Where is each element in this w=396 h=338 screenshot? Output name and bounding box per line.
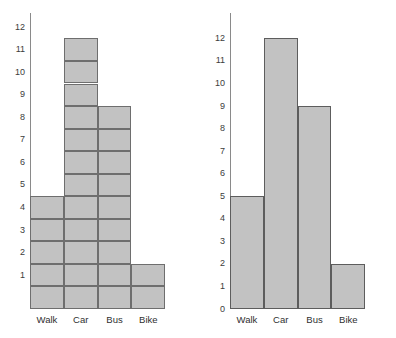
y-tick-label: 5 [202, 192, 225, 201]
chart-panel-left: 123456789101112 WalkCarBusBike [0, 0, 198, 338]
y-tick-label: 4 [2, 203, 25, 212]
bar-cell [64, 286, 98, 309]
y-tick-label: 1 [202, 282, 225, 291]
two-bar-charts-figure: 123456789101112 WalkCarBusBike 012345678… [0, 0, 396, 338]
bar-cell [64, 151, 98, 174]
bar-cell [64, 219, 98, 242]
bar-cell [30, 196, 64, 219]
bar-cell [64, 61, 98, 84]
y-tick-label: 7 [2, 135, 25, 144]
bar [264, 38, 298, 309]
y-tick-label: 6 [2, 158, 25, 167]
bar-cell [98, 196, 132, 219]
bar-cell [64, 174, 98, 197]
y-tick-label: 5 [2, 180, 25, 189]
y-tick-label: 12 [202, 34, 225, 43]
x-tick-label: Walk [230, 315, 264, 325]
y-tick-label: 8 [202, 124, 225, 133]
bar [298, 106, 332, 309]
bar-cell [64, 129, 98, 152]
bar-cell [64, 241, 98, 264]
bar-cell [98, 219, 132, 242]
chart-panel-right: 0123456789101112 WalkCarBusBike [198, 0, 396, 338]
y-tick-label: 2 [202, 259, 225, 268]
bar-cell [98, 106, 132, 129]
x-tick-label: Bus [298, 315, 332, 325]
x-tick-label: Car [64, 315, 98, 325]
bar-cell [98, 264, 132, 287]
y-tick-label: 10 [202, 79, 225, 88]
bar-cell [30, 264, 64, 287]
y-tick-label: 6 [202, 169, 225, 178]
bar-cell [30, 241, 64, 264]
y-tick-label: 3 [2, 226, 25, 235]
x-tick-label: Walk [30, 315, 64, 325]
bar-cell [98, 129, 132, 152]
x-tick-label: Bike [131, 315, 165, 325]
bar-cell [30, 286, 64, 309]
y-tick-label: 11 [202, 56, 225, 65]
y-tick-label: 3 [202, 237, 225, 246]
bar-cell [98, 174, 132, 197]
y-tick-label: 11 [2, 45, 25, 54]
x-tick-label: Car [264, 315, 298, 325]
y-tick-label: 1 [2, 271, 25, 280]
bar-cell [131, 264, 165, 287]
bar-cell [64, 264, 98, 287]
bar-cell [64, 38, 98, 61]
y-tick-label: 8 [2, 113, 25, 122]
bar [331, 264, 365, 309]
y-tick-label: 9 [2, 90, 25, 99]
bar-cell [30, 219, 64, 242]
bar-cell [64, 196, 98, 219]
y-tick-label: 9 [202, 102, 225, 111]
bar-cell [98, 286, 132, 309]
bar-cell [98, 241, 132, 264]
bar-cell [131, 286, 165, 309]
bar-cell [64, 84, 98, 107]
x-tick-label: Bike [331, 315, 365, 325]
x-tick-label: Bus [98, 315, 132, 325]
bar-cell [98, 151, 132, 174]
bar [230, 196, 264, 309]
y-tick-label: 7 [202, 147, 225, 156]
y-tick-label: 12 [2, 23, 25, 32]
y-tick-label: 10 [2, 68, 25, 77]
bar-cell [64, 106, 98, 129]
y-tick-label: 4 [202, 214, 225, 223]
y-tick-label: 2 [2, 248, 25, 257]
y-tick-label: 0 [202, 305, 225, 314]
